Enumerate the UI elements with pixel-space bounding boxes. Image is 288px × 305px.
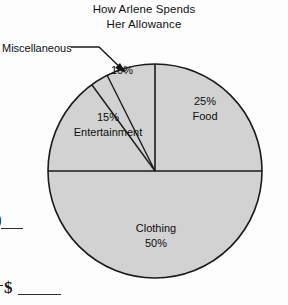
clothing-name: Clothing [118, 221, 194, 236]
food-percent: 25% [174, 94, 236, 109]
food-name: Food [174, 109, 236, 124]
artifact-partial-glyph: ) [0, 211, 2, 228]
clothing-percent: 50% [118, 236, 194, 251]
slice-label-food: 25% Food [174, 94, 236, 124]
artifact-answer-rule-bottom [18, 294, 61, 295]
entertainment-name: Entertainment [54, 125, 162, 140]
slice-label-clothing: Clothing 50% [118, 221, 194, 251]
slice-label-miscellaneous: Miscellaneous [2, 41, 72, 55]
worksheet-page: How Arlene Spends Her Allowance 25% Food… [0, 0, 288, 305]
artifact-answer-rule-top [1, 228, 23, 229]
slice-label-entertainment: 15% Entertainment [54, 110, 162, 140]
entertainment-percent: 15% [54, 110, 162, 125]
artifact-dollar-sign: $ [4, 278, 13, 297]
ten-percent: 10% [100, 63, 144, 78]
slice-label-ten-percent: 10% [100, 63, 144, 78]
artifact-tick-mark [0, 285, 3, 286]
